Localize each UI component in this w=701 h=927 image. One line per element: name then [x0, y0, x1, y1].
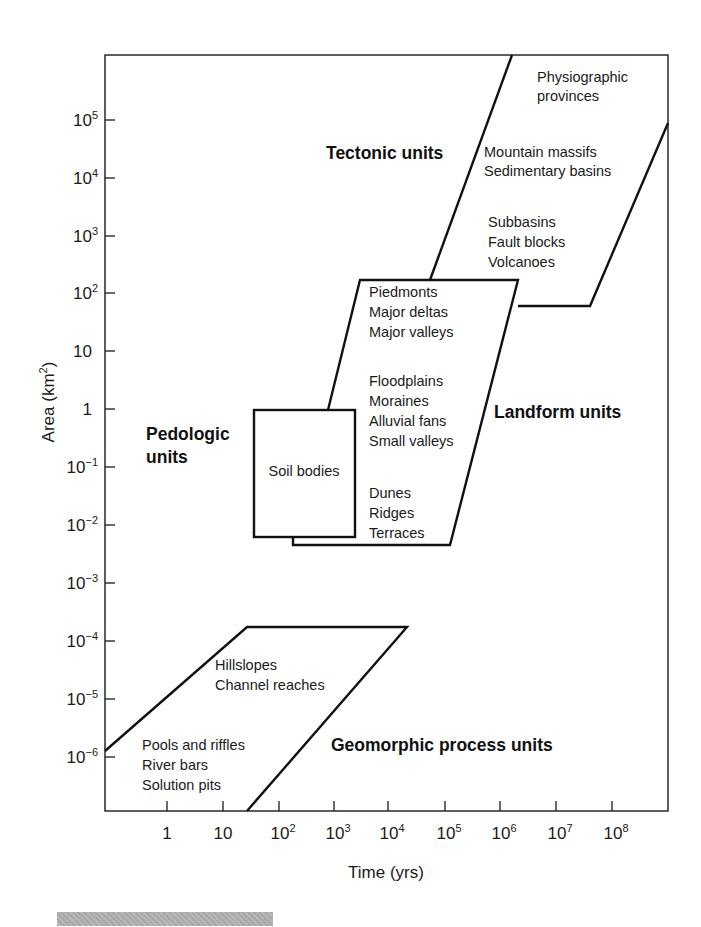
- x-axis-ticks: [167, 801, 612, 811]
- svg-text:103: 103: [73, 225, 98, 246]
- svg-text:102: 102: [270, 822, 295, 843]
- landform-items: Piedmonts Major deltas Major valleys Flo…: [369, 284, 454, 541]
- svg-text:104: 104: [379, 822, 404, 843]
- svg-text:10: 10: [73, 342, 92, 361]
- svg-text:104: 104: [73, 167, 98, 188]
- svg-text:Floodplains: Floodplains: [369, 373, 443, 389]
- svg-text:Major deltas: Major deltas: [369, 304, 448, 320]
- y-axis-labels: 105 104 103 102 10 1 10−1 10−2 10−3 10−4…: [67, 109, 98, 767]
- svg-text:105: 105: [73, 109, 98, 130]
- svg-text:Terraces: Terraces: [369, 525, 425, 541]
- svg-text:Ridges: Ridges: [369, 505, 414, 521]
- svg-text:Hillslopes: Hillslopes: [215, 657, 277, 673]
- y-axis-ticks: [105, 120, 115, 757]
- svg-text:10−6: 10−6: [67, 746, 98, 767]
- landform-units-label: Landform units: [494, 402, 622, 422]
- caption-placeholder-bar: [57, 912, 273, 926]
- svg-text:10: 10: [214, 824, 233, 843]
- svg-text:10−3: 10−3: [67, 572, 98, 593]
- svg-text:107: 107: [547, 822, 572, 843]
- pedologic-units-label-1: Pedologic: [146, 424, 230, 444]
- svg-text:Physiographic: Physiographic: [537, 69, 628, 85]
- scale-diagram: 105 104 103 102 10 1 10−1 10−2 10−3 10−4…: [0, 0, 701, 927]
- svg-text:Pools and riffles: Pools and riffles: [142, 737, 245, 753]
- svg-text:102: 102: [73, 282, 98, 303]
- svg-text:1: 1: [83, 400, 92, 419]
- svg-text:105: 105: [436, 822, 461, 843]
- svg-text:Alluvial fans: Alluvial fans: [369, 413, 446, 429]
- geomorphic-items: Hillslopes Channel reaches Pools and rif…: [142, 657, 325, 793]
- svg-text:Fault blocks: Fault blocks: [488, 234, 565, 250]
- x-axis-title: Time (yrs): [348, 863, 424, 882]
- svg-text:Sedimentary basins: Sedimentary basins: [484, 163, 611, 179]
- svg-text:10−2: 10−2: [67, 514, 98, 535]
- svg-text:10−5: 10−5: [67, 688, 98, 709]
- svg-text:Subbasins: Subbasins: [488, 214, 556, 230]
- svg-text:108: 108: [603, 822, 628, 843]
- svg-text:1: 1: [162, 824, 171, 843]
- svg-text:10−4: 10−4: [67, 630, 98, 651]
- svg-text:Piedmonts: Piedmonts: [369, 284, 438, 300]
- svg-text:103: 103: [325, 822, 350, 843]
- svg-text:Solution pits: Solution pits: [142, 777, 221, 793]
- svg-text:River bars: River bars: [142, 757, 208, 773]
- pedologic-units-label-2: units: [146, 447, 188, 467]
- svg-text:106: 106: [491, 822, 516, 843]
- svg-text:provinces: provinces: [537, 88, 599, 104]
- geomorphic-units-label: Geomorphic process units: [331, 735, 553, 755]
- svg-text:Mountain massifs: Mountain massifs: [484, 144, 597, 160]
- tectonic-items: Physiographic provinces Mountain massifs…: [484, 69, 628, 270]
- svg-text:Major valleys: Major valleys: [369, 324, 454, 340]
- svg-text:Moraines: Moraines: [369, 393, 429, 409]
- x-axis-labels: 1 10 102 103 104 105 106 107 108: [162, 822, 628, 843]
- svg-text:Volcanoes: Volcanoes: [488, 254, 555, 270]
- svg-text:10−1: 10−1: [67, 456, 98, 477]
- soil-bodies-label: Soil bodies: [269, 463, 340, 479]
- svg-text:Small valleys: Small valleys: [369, 433, 454, 449]
- y-axis-title: Area (km2): [37, 362, 58, 443]
- svg-text:Channel reaches: Channel reaches: [215, 677, 325, 693]
- tectonic-units-label: Tectonic units: [326, 143, 444, 163]
- svg-text:Dunes: Dunes: [369, 485, 411, 501]
